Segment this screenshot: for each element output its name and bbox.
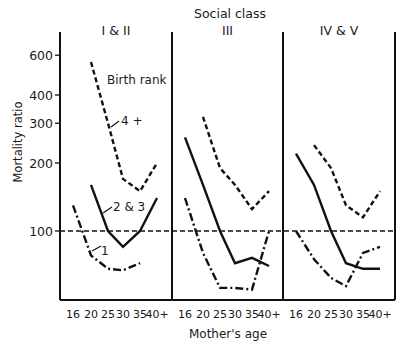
y-tick-label: 400 <box>29 88 53 103</box>
panel-label: IV & V <box>320 23 359 38</box>
series-label-1: 1 <box>92 244 109 258</box>
x-axis: 162025303540+162025303540+162025303540+ <box>66 308 392 321</box>
svg-text:1: 1 <box>101 244 109 258</box>
y-tick-label: 200 <box>29 156 53 171</box>
x-tick-label: 30 <box>116 308 130 321</box>
x-tick-label: 25 <box>101 308 115 321</box>
y-tick-label: 300 <box>29 116 53 131</box>
x-tick-label: 16 <box>66 308 80 321</box>
svg-text:4 +: 4 + <box>121 114 143 128</box>
series-line <box>203 117 269 209</box>
chart-title: Social class <box>194 6 266 21</box>
x-tick-label: 25 <box>213 308 227 321</box>
x-tick-label: 30 <box>339 308 353 321</box>
x-tick-label: 16 <box>289 308 303 321</box>
y-axis-label: Mortality ratio <box>11 101 25 182</box>
series-line <box>185 137 269 266</box>
x-tick-label: 20 <box>196 308 210 321</box>
x-tick-label: 40+ <box>145 308 168 321</box>
x-tick-label: 40+ <box>368 308 391 321</box>
y-tick-label: 100 <box>29 224 53 239</box>
x-tick-label: 25 <box>324 308 338 321</box>
x-axis-label: Mother's age <box>189 327 267 341</box>
series-label-2and3: 2 & 3 <box>103 200 145 214</box>
panel-label: I & II <box>102 23 131 38</box>
y-tick-label: 600 <box>29 48 53 63</box>
x-tick-label: 20 <box>307 308 321 321</box>
series-line <box>296 231 380 286</box>
panel-label: III <box>222 23 233 38</box>
legend-title: Birth rank <box>107 73 167 87</box>
series-line <box>91 185 157 247</box>
y-axis: 100200300400600 <box>29 48 60 239</box>
series-lines <box>73 62 380 290</box>
x-tick-label: 40+ <box>257 308 280 321</box>
svg-text:2 & 3: 2 & 3 <box>113 200 145 214</box>
series-line <box>73 205 140 270</box>
mortality-chart: Social class 100200300400600 Mortality r… <box>0 0 408 349</box>
x-tick-label: 16 <box>178 308 192 321</box>
series-label-4plus: 4 + <box>111 114 143 128</box>
x-tick-label: 20 <box>84 308 98 321</box>
panel-labels: I & IIIIIIV & V <box>102 23 359 38</box>
x-tick-label: 30 <box>228 308 242 321</box>
series-line <box>314 145 380 217</box>
